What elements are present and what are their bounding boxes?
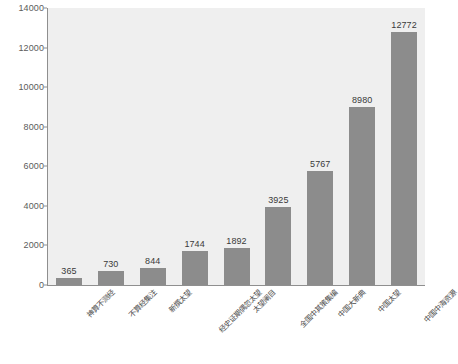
y-axis-tick-mark xyxy=(44,8,47,9)
x-axis-line xyxy=(47,285,425,286)
bars-layer: 3657308441744189239255767898012772 xyxy=(48,8,425,285)
bar-slot: 365 xyxy=(56,8,82,285)
bar-slot: 3925 xyxy=(265,8,291,285)
y-axis-tick-label: 2000 xyxy=(24,240,44,250)
x-axis-category-label: 中国中海资源 xyxy=(422,288,458,324)
x-axis-category-label: 中国大新典 xyxy=(337,288,368,319)
y-axis-tick-labels: 02000400060008000100001200014000 xyxy=(0,0,44,364)
bar-value-label: 1892 xyxy=(226,236,246,246)
y-axis-tick-mark xyxy=(44,285,47,286)
bar-value-label: 5767 xyxy=(310,159,330,169)
y-axis-tick-mark xyxy=(44,87,47,88)
bar-value-label: 12772 xyxy=(391,20,417,30)
x-axis-category-label: 全国中其策集编 xyxy=(299,288,340,329)
bar xyxy=(140,268,166,285)
bar xyxy=(98,271,124,285)
bar xyxy=(349,107,375,285)
bar-slot: 730 xyxy=(98,8,124,285)
y-axis-tick-mark xyxy=(44,205,47,206)
bar xyxy=(182,251,208,286)
bar xyxy=(224,248,250,285)
y-axis-tick-label: 14000 xyxy=(18,3,44,13)
x-axis-category-label: 神算不测经 xyxy=(85,288,116,319)
x-axis-category-labels: 神算不测经不算经集注新撰太望经史证期偶忽太望太望阐目全国中其策集编中国大新典中国… xyxy=(48,288,425,364)
bar-value-label: 730 xyxy=(103,259,118,269)
bar xyxy=(265,207,291,285)
bar-value-label: 1744 xyxy=(184,239,204,249)
y-axis-tick-label: 12000 xyxy=(18,43,44,53)
bar-slot: 1892 xyxy=(224,8,250,285)
bar xyxy=(56,278,82,285)
y-axis-tick-mark xyxy=(44,126,47,127)
bar-slot: 12772 xyxy=(391,8,417,285)
y-axis-tick-label: 6000 xyxy=(24,161,44,171)
bar-value-label: 365 xyxy=(61,266,76,276)
y-axis-tick-mark xyxy=(44,47,47,48)
x-axis-category-label: 不算经集注 xyxy=(127,288,158,319)
bar-value-label: 844 xyxy=(145,256,160,266)
bar-slot: 8980 xyxy=(349,8,375,285)
bar-slot: 1744 xyxy=(182,8,208,285)
x-axis-category-label: 新撰太望 xyxy=(167,288,193,314)
y-axis-tick-label: 4000 xyxy=(24,201,44,211)
bar-slot: 5767 xyxy=(307,8,333,285)
bar-value-label: 8980 xyxy=(352,95,372,105)
bar xyxy=(391,32,417,285)
bar xyxy=(307,171,333,285)
bar-slot: 844 xyxy=(140,8,166,285)
y-axis-tick-mark xyxy=(44,166,47,167)
y-axis-tick-mark xyxy=(44,245,47,246)
y-axis-tick-label: 10000 xyxy=(18,82,44,92)
bar-value-label: 3925 xyxy=(268,195,288,205)
y-axis-tick-label: 8000 xyxy=(24,122,44,132)
x-axis-category-label: 中国太望 xyxy=(376,288,402,314)
